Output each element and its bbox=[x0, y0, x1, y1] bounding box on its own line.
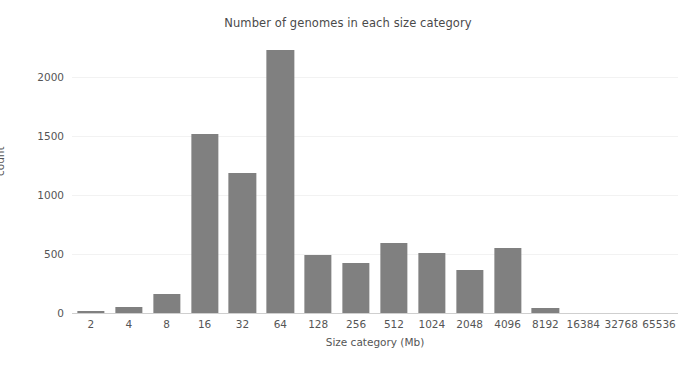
bar-slot bbox=[299, 38, 337, 313]
bar-slot bbox=[527, 38, 565, 313]
y-axis-tick-label: 500 bbox=[16, 248, 64, 260]
bar[interactable] bbox=[153, 294, 180, 313]
chart-figure: Number of genomes in each size category … bbox=[0, 0, 696, 365]
y-axis-tick-label: 0 bbox=[16, 307, 64, 319]
bar[interactable] bbox=[191, 134, 218, 313]
x-axis-tick-label: 1024 bbox=[418, 318, 445, 330]
x-axis-tick-label: 64 bbox=[274, 318, 287, 330]
x-axis-tick-label: 65536 bbox=[642, 318, 675, 330]
x-axis-label: Size category (Mb) bbox=[72, 336, 678, 348]
bar-series bbox=[72, 38, 678, 313]
bar[interactable] bbox=[380, 243, 407, 313]
chart-title: Number of genomes in each size category bbox=[0, 16, 696, 30]
x-axis-tick-label: 32768 bbox=[604, 318, 637, 330]
x-axis-tick-label: 2 bbox=[88, 318, 95, 330]
plot-area bbox=[72, 38, 678, 313]
bar[interactable] bbox=[456, 270, 483, 313]
x-axis-tick-label: 16 bbox=[198, 318, 211, 330]
bar-slot bbox=[261, 38, 299, 313]
y-axis-tick-label: 1000 bbox=[16, 189, 64, 201]
x-axis-tick-label: 512 bbox=[384, 318, 404, 330]
bar-slot bbox=[375, 38, 413, 313]
bar-slot bbox=[602, 38, 640, 313]
bar-slot bbox=[413, 38, 451, 313]
x-axis-tick-label: 128 bbox=[308, 318, 328, 330]
bar[interactable] bbox=[494, 248, 521, 314]
x-axis-tick-label: 8 bbox=[163, 318, 170, 330]
bar-slot bbox=[489, 38, 527, 313]
bar-slot bbox=[186, 38, 224, 313]
y-axis-tick-labels: 0500100015002000 bbox=[8, 0, 64, 365]
y-axis-tick-label: 1500 bbox=[16, 130, 64, 142]
bar[interactable] bbox=[267, 50, 294, 313]
bar[interactable] bbox=[342, 263, 369, 313]
bar-slot bbox=[337, 38, 375, 313]
bar-slot bbox=[640, 38, 678, 313]
x-axis-line bbox=[72, 313, 678, 314]
bar-slot bbox=[148, 38, 186, 313]
y-axis-label: count bbox=[0, 146, 6, 176]
bar[interactable] bbox=[229, 173, 256, 313]
bar[interactable] bbox=[305, 255, 332, 313]
x-axis-tick-label: 16384 bbox=[567, 318, 600, 330]
bar-slot bbox=[72, 38, 110, 313]
bar-slot bbox=[110, 38, 148, 313]
x-axis-tick-label: 256 bbox=[346, 318, 366, 330]
x-axis-tick-label: 4096 bbox=[494, 318, 521, 330]
bar-slot bbox=[224, 38, 262, 313]
x-axis-tick-label: 8192 bbox=[532, 318, 559, 330]
bar-slot bbox=[564, 38, 602, 313]
x-axis-tick-label: 32 bbox=[236, 318, 249, 330]
bar[interactable] bbox=[418, 253, 445, 313]
x-axis-tick-label: 2048 bbox=[456, 318, 483, 330]
bar-slot bbox=[451, 38, 489, 313]
x-axis-tick-label: 4 bbox=[125, 318, 132, 330]
y-axis-tick-label: 2000 bbox=[16, 71, 64, 83]
